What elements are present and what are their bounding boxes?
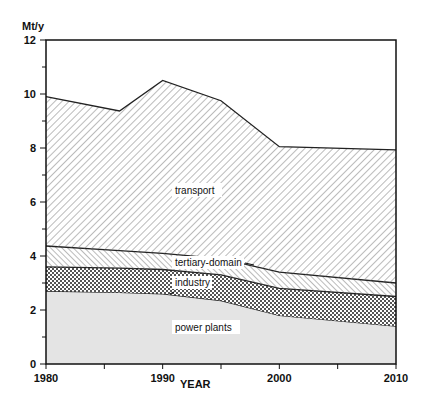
y-tick-label: 12: [24, 34, 36, 46]
x-axis-label: YEAR: [180, 378, 211, 390]
x-tick-label: 1990: [150, 372, 174, 384]
x-tick-label: 1980: [34, 372, 58, 384]
y-tick-label: 2: [30, 304, 36, 316]
power-plants-label: power plants: [175, 322, 232, 333]
stacked-area-chart: 0246810121980199020002010 Mt/y YEAR tran…: [0, 0, 427, 408]
y-tick-label: 0: [30, 358, 36, 370]
y-axis-label: Mt/y: [22, 20, 45, 32]
industry-label: industry: [175, 277, 210, 288]
x-tick-label: 2000: [267, 372, 291, 384]
y-tick-label: 4: [30, 250, 37, 262]
y-tick-label: 10: [24, 88, 36, 100]
y-tick-label: 8: [30, 142, 36, 154]
transport-label: transport: [175, 185, 215, 196]
y-tick-label: 6: [30, 196, 36, 208]
x-tick-label: 2010: [384, 372, 408, 384]
tertiary-domain-label: tertiary-domain: [175, 257, 242, 268]
